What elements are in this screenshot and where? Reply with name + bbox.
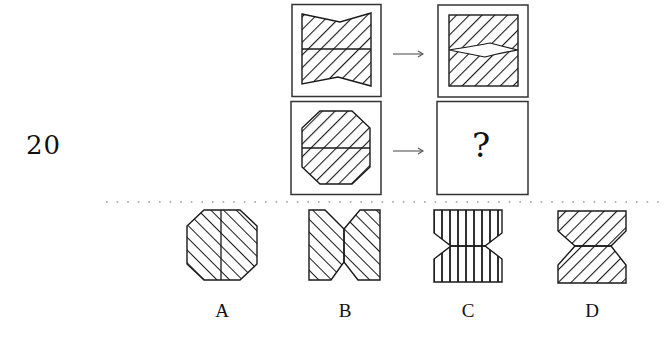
option-c-label[interactable]: C xyxy=(462,300,475,322)
prompt-row-1-left xyxy=(292,5,381,97)
prompt-row-2-left xyxy=(291,102,381,195)
unknown-answer-symbol: ? xyxy=(472,128,490,162)
arrow-icon xyxy=(393,148,423,154)
option-a-figure[interactable] xyxy=(187,210,257,280)
arrow-icon xyxy=(393,51,423,57)
option-b-figure[interactable] xyxy=(309,210,380,280)
option-a-label[interactable]: A xyxy=(215,300,229,322)
puzzle-canvas xyxy=(0,0,666,343)
option-d-figure[interactable] xyxy=(558,211,626,283)
option-b-label[interactable]: B xyxy=(339,300,352,322)
option-c-figure[interactable] xyxy=(434,210,502,282)
prompt-row-1-right xyxy=(438,5,528,97)
option-d-label[interactable]: D xyxy=(585,300,599,322)
